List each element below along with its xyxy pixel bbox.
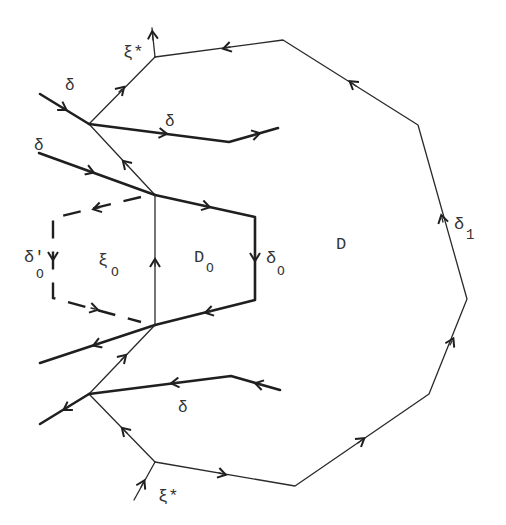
arrow-icon (141, 483, 143, 487)
diagram-figure: ξ* δ δ δ δ' O ξ O D O δ O D δ 1 δ ξ* (0, 0, 506, 525)
arrow-icon (160, 133, 164, 134)
label-xi-star-bottom: ξ* (158, 487, 178, 506)
arrow-icon (442, 218, 443, 222)
labels: ξ* δ δ δ δ' O ξ O D O δ O D δ 1 δ ξ* (24, 43, 474, 506)
label-delta-left: δ (34, 137, 44, 155)
delta-left-branch (39, 153, 155, 195)
label-xi-star-top: ξ* (123, 43, 143, 62)
delta-lower-branch (40, 376, 280, 424)
xi-star-top-branch (152, 28, 155, 57)
label-delta-prime-0-sub: O (36, 267, 44, 282)
xi0-boundary-delta-prime0 (53, 197, 141, 322)
label-delta-0: δ (266, 249, 276, 268)
label-delta-upper-left: δ (65, 77, 75, 95)
label-xi-0-sub: O (111, 265, 119, 280)
label-d0-sub: O (206, 261, 214, 276)
arrow-icon (91, 308, 95, 309)
label-delta-1-sub: 1 (466, 227, 474, 243)
delta-lower-left-branch (40, 325, 155, 363)
label-delta-lower: δ (178, 399, 188, 417)
label-d: D (336, 235, 346, 254)
delta-upper-branch (40, 94, 278, 142)
arrow-icon (124, 430, 127, 433)
label-d0: D (194, 248, 204, 267)
xi-star-bottom-branch (134, 462, 155, 500)
arrow-icon (153, 34, 154, 40)
label-delta-1: δ (454, 215, 464, 234)
label-delta-0-sub: O (277, 264, 285, 279)
diagram-canvas: ξ* δ δ δ δ' O ξ O D O δ O D δ 1 δ ξ* (0, 0, 506, 525)
label-delta-prime-0: δ' (24, 248, 44, 267)
d0-boundary-delta0 (155, 195, 255, 325)
arrow-icon (358, 440, 362, 443)
arrow-icon (174, 383, 178, 384)
label-xi-0: ξ (98, 251, 108, 270)
label-delta-upper-mid: δ (165, 113, 175, 131)
